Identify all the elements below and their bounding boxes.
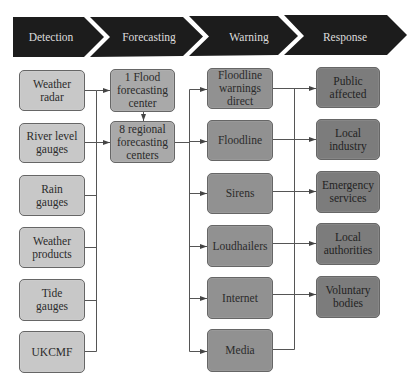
box-label: Voluntary bodies <box>325 284 370 310</box>
warning-box-sirens: Sirens <box>207 173 273 214</box>
warning-box-floodline: Floodline <box>207 120 273 161</box>
box-label: Weather radar <box>33 78 71 104</box>
warning-box-floodline-warnings-direct: Floodline warnings direct <box>207 68 273 109</box>
response-box-local-authorities: Local authorities <box>316 223 380 265</box>
detection-box-rain-gauges: Rain gauges <box>19 175 85 216</box>
flood-warning-diagram: Detection Forecasting Warning Response <box>0 0 417 389</box>
box-label: Floodline warnings direct <box>218 69 262 108</box>
warning-to-response-connectors <box>273 89 316 350</box>
box-label: UKCMF <box>32 346 73 359</box>
box-label: Public affected <box>330 75 367 101</box>
warning-box-internet: Internet <box>207 277 273 319</box>
box-label: Loudhailers <box>213 240 268 253</box>
box-label: 8 regional forecasting centers <box>117 123 168 162</box>
response-box-voluntary-bodies: Voluntary bodies <box>316 276 380 318</box>
response-box-local-industry: Local industry <box>316 119 380 160</box>
response-box-emergency-services: Emergency services <box>316 171 380 213</box>
forecasting-box-regional-centers: 8 regional forecasting centers <box>110 121 175 163</box>
response-box-public-affected: Public affected <box>316 67 380 108</box>
box-label: Floodline <box>218 134 262 147</box>
detection-box-ukcmf: UKCMF <box>19 331 85 373</box>
detection-box-weather-radar: Weather radar <box>19 70 85 111</box>
box-label: Emergency services <box>322 179 374 205</box>
detection-box-tide-gauges: Tide gauges <box>19 279 85 321</box>
box-label: Internet <box>222 292 258 305</box>
box-label: Local authorities <box>324 231 373 257</box>
box-label: Weather products <box>32 235 72 261</box>
detection-connectors <box>85 91 97 352</box>
box-label: River level gauges <box>27 130 78 156</box>
warning-box-media: Media <box>207 329 273 372</box>
detection-box-weather-products: Weather products <box>19 227 85 268</box>
box-label: 1 Flood forecasting center <box>117 71 168 110</box>
box-label: Media <box>225 344 254 357</box>
box-label: Tide gauges <box>36 287 68 313</box>
forecasting-box-flood-center: 1 Flood forecasting center <box>110 69 175 112</box>
box-label: Local industry <box>329 127 367 153</box>
detection-box-river-level-gauges: River level gauges <box>19 123 85 163</box>
box-label: Rain gauges <box>36 183 68 209</box>
box-label: Sirens <box>226 187 255 200</box>
forecasting-to-warning-connectors <box>175 90 207 352</box>
warning-box-loudhailers: Loudhailers <box>207 225 273 267</box>
